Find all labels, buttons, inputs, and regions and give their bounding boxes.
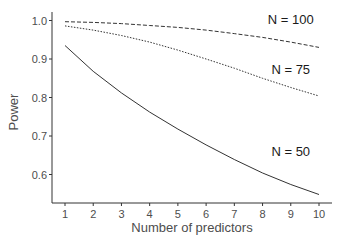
series-lines [65, 22, 319, 195]
series-label-75: N = 75 [271, 62, 310, 77]
series-label-50: N = 50 [271, 144, 310, 159]
x-tick-label: 10 [313, 208, 325, 220]
x-tick-label: 9 [288, 208, 294, 220]
x-tick-label: 3 [118, 208, 124, 220]
axes: 0.60.70.80.91.012345678910 [32, 12, 332, 220]
x-tick-label: 5 [175, 208, 181, 220]
y-tick-label: 0.7 [32, 130, 47, 142]
y-axis-label: Power [6, 93, 21, 131]
series-label-100: N = 100 [268, 12, 314, 27]
chart-canvas: 0.60.70.80.91.012345678910 N = 100N = 75… [0, 0, 348, 245]
x-axis-label: Number of predictors [131, 220, 253, 235]
y-tick-label: 0.8 [32, 92, 47, 104]
y-tick-label: 0.9 [32, 53, 47, 65]
y-tick-label: 0.6 [32, 169, 47, 181]
series-labels: N = 100N = 75N = 50 [268, 12, 314, 159]
x-tick-label: 1 [62, 208, 68, 220]
x-tick-label: 6 [203, 208, 209, 220]
x-tick-label: 7 [231, 208, 237, 220]
x-tick-label: 8 [259, 208, 265, 220]
x-tick-label: 4 [147, 208, 153, 220]
power-line-chart: 0.60.70.80.91.012345678910 N = 100N = 75… [0, 0, 348, 245]
y-tick-label: 1.0 [32, 15, 47, 27]
x-tick-label: 2 [90, 208, 96, 220]
